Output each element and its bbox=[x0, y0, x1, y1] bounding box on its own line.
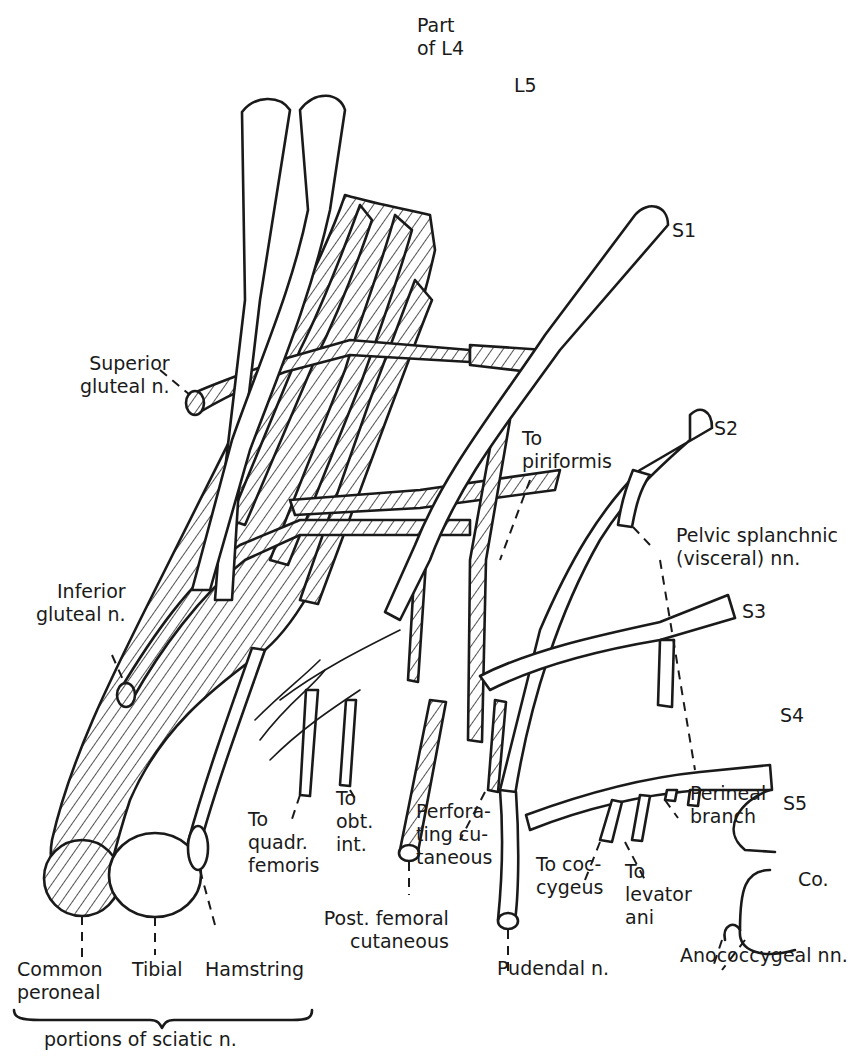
label-to-coccygeus: To coc- cygeus bbox=[536, 853, 603, 899]
label-to-piriformis: To piriformis bbox=[522, 427, 612, 473]
label-pelvic-splanchnic: Pelvic splanchnic (visceral) nn. bbox=[676, 524, 838, 570]
label-perineal-branch: Perineal branch bbox=[690, 782, 766, 828]
sciatic-brace bbox=[14, 1010, 312, 1028]
label-common-peroneal: Common peroneal bbox=[17, 958, 103, 1004]
label-root-co: Co. bbox=[798, 868, 829, 891]
label-root-s4: S4 bbox=[780, 704, 804, 727]
label-inferior-gluteal: Inferior gluteal n. bbox=[36, 580, 126, 626]
label-root-s1: S1 bbox=[672, 219, 696, 242]
label-superior-gluteal: Superior gluteal n. bbox=[80, 352, 170, 398]
label-sciatic-group-caption: portions of sciatic n. bbox=[44, 1028, 237, 1051]
label-root-s2: S2 bbox=[714, 417, 738, 440]
label-to-quadr-femoris: To quadr. femoris bbox=[248, 808, 320, 877]
label-root-s5: S5 bbox=[783, 792, 807, 815]
label-anococcygeal: Anococcygeal nn. bbox=[680, 944, 848, 967]
label-to-levator-ani: To levator ani bbox=[625, 860, 692, 929]
label-root-s3: S3 bbox=[742, 600, 766, 623]
label-post-femoral-cutaneous: Post. femoral cutaneous bbox=[318, 907, 449, 953]
label-to-obt-int: To obt. int. bbox=[336, 787, 373, 856]
label-hamstring: Hamstring bbox=[205, 958, 304, 981]
label-tibial: Tibial bbox=[132, 958, 183, 981]
label-pudendal: Pudendal n. bbox=[497, 957, 609, 980]
label-root-l4: Part of L4 bbox=[417, 14, 464, 60]
label-root-l5: L5 bbox=[514, 74, 537, 97]
label-perforating-cutaneous: Perfora- ting cu- taneous bbox=[416, 800, 492, 869]
